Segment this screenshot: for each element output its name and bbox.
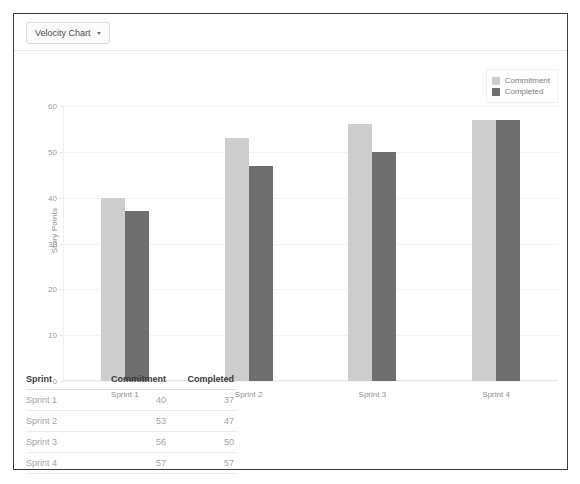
cell-sprint: Sprint 3 (26, 432, 102, 453)
bar-group: Sprint 3 (348, 106, 396, 381)
bar-completed[interactable] (496, 120, 520, 381)
legend-label: Commitment (505, 76, 550, 85)
legend-label: Completed (505, 87, 544, 96)
chart-type-select[interactable]: Velocity Chart ▾ (26, 22, 110, 44)
chart-type-label: Velocity Chart (35, 28, 91, 38)
chart-legend: Commitment Completed (486, 69, 558, 103)
cell-commitment: 53 (102, 411, 170, 432)
y-axis-tick-label: 60 (48, 102, 57, 111)
chevron-down-icon: ▾ (97, 30, 101, 36)
cell-completed: 57 (170, 453, 238, 474)
bar-group: Sprint 1 (101, 106, 149, 381)
column-header-sprint: Sprint (26, 369, 102, 390)
cell-completed: 37 (170, 390, 238, 411)
legend-swatch-icon (492, 88, 500, 96)
table-row: Sprint 35650 (26, 432, 238, 453)
column-header-commitment: Commitment (102, 369, 170, 390)
bars-layer: Sprint 1Sprint 2Sprint 3Sprint 4 (63, 106, 558, 381)
bar-commitment[interactable] (348, 124, 372, 381)
plot-area: 0102030405060 Sprint 1Sprint 2Sprint 3Sp… (63, 106, 558, 381)
bar-commitment[interactable] (101, 198, 125, 381)
legend-item-completed: Completed (492, 86, 550, 97)
table-header-row: Sprint Commitment Completed (26, 369, 238, 390)
cell-sprint: Sprint 1 (26, 390, 102, 411)
velocity-chart-panel: Velocity Chart ▾ Story Points 0102030405… (13, 13, 568, 470)
cell-commitment: 40 (102, 390, 170, 411)
chart-region: Story Points 0102030405060 Sprint 1Sprin… (14, 51, 567, 381)
cell-commitment: 56 (102, 432, 170, 453)
y-axis-tick-label: 50 (48, 147, 57, 156)
cell-completed: 47 (170, 411, 238, 432)
bar-commitment[interactable] (472, 120, 496, 381)
column-header-completed: Completed (170, 369, 238, 390)
panel-header: Velocity Chart ▾ (14, 14, 567, 51)
y-axis-tick-label: 10 (48, 331, 57, 340)
bar-completed[interactable] (249, 166, 273, 381)
cell-sprint: Sprint 2 (26, 411, 102, 432)
y-axis-tick-label: 40 (48, 193, 57, 202)
y-axis-tick-label: 30 (48, 239, 57, 248)
velocity-table-region: Sprint Commitment Completed Sprint 14037… (26, 369, 226, 474)
table-row: Sprint 14037 (26, 390, 238, 411)
velocity-table: Sprint Commitment Completed Sprint 14037… (26, 369, 238, 474)
cell-commitment: 57 (102, 453, 170, 474)
table-row: Sprint 25347 (26, 411, 238, 432)
bar-commitment[interactable] (225, 138, 249, 381)
cell-completed: 50 (170, 432, 238, 453)
legend-item-commitment: Commitment (492, 75, 550, 86)
legend-swatch-icon (492, 77, 500, 85)
bar-group: Sprint 4 (472, 106, 520, 381)
y-axis-tick-label: 20 (48, 285, 57, 294)
bar-group: Sprint 2 (225, 106, 273, 381)
x-axis-tick-label: Sprint 3 (348, 390, 396, 399)
table-body: Sprint 14037Sprint 25347Sprint 35650Spri… (26, 390, 238, 474)
bar-completed[interactable] (372, 152, 396, 381)
bar-completed[interactable] (125, 211, 149, 381)
x-axis-tick-label: Sprint 4 (472, 390, 520, 399)
cell-sprint: Sprint 4 (26, 453, 102, 474)
table-row: Sprint 45757 (26, 453, 238, 474)
